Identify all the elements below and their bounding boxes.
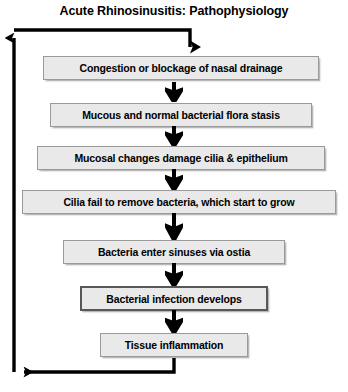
flow-node-3: Mucosal changes damage cilia & epitheliu… <box>37 146 325 170</box>
flow-node-1: Congestion or blockage of nasal drainage <box>43 56 319 80</box>
flow-node-6: Bacterial infection develops <box>80 286 268 311</box>
flow-node-5-label: Bacteria enter sinuses via ostia <box>98 246 250 258</box>
flow-arrow-6-to-7 <box>165 310 183 333</box>
flow-node-4: Cilia fail to remove bacteria, which sta… <box>22 190 336 214</box>
flow-arrow-5-to-6 <box>165 263 183 286</box>
flow-node-6-label: Bacterial infection develops <box>106 293 241 305</box>
flow-node-7-label: Tissue inflammation <box>125 339 223 351</box>
flow-arrow-4-to-5 <box>165 213 183 240</box>
flow-node-7: Tissue inflammation <box>100 333 248 357</box>
flow-node-3-label: Mucosal changes damage cilia & epitheliu… <box>74 152 287 164</box>
flow-arrow-3-to-4 <box>165 169 183 190</box>
page-title: Acute Rhinosinusitis: Pathophysiology <box>0 4 348 18</box>
flow-node-2: Mucous and normal bacterial flora stasis <box>50 103 312 127</box>
flow-node-2-label: Mucous and normal bacterial flora stasis <box>82 109 280 121</box>
flow-node-4-label: Cilia fail to remove bacteria, which sta… <box>63 196 294 208</box>
flow-arrow-2-to-3 <box>165 126 183 146</box>
flowchart-diagram: Acute Rhinosinusitis: Pathophysiology Co… <box>0 0 348 392</box>
flow-arrow-1-to-2 <box>165 82 183 102</box>
flow-node-5: Bacteria enter sinuses via ostia <box>63 240 285 264</box>
flow-node-1-label: Congestion or blockage of nasal drainage <box>80 62 283 74</box>
